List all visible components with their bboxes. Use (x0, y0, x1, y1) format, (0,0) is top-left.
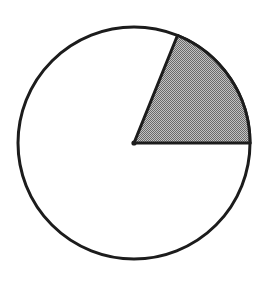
circle-sector-figure (0, 0, 265, 283)
figure-container: Circle with shaded sector 68 116 (0, 0, 265, 283)
center-vertex-point (131, 140, 136, 145)
